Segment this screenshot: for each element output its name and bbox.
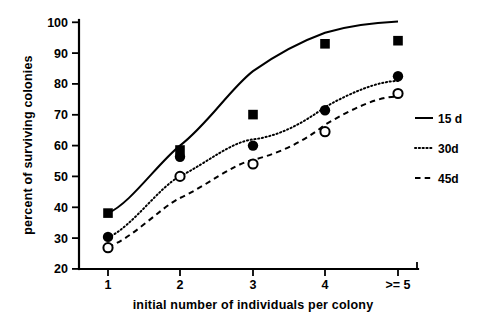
point-45d-x5 xyxy=(393,89,402,98)
x-tick-labels: 1 2 3 4 >= 5 xyxy=(105,278,411,292)
y-tick-label-20: 20 xyxy=(54,262,68,276)
series-30d-markers xyxy=(103,71,403,242)
x-axis-title: initial number of individuals per colony xyxy=(133,298,374,312)
y-tick-label-70: 70 xyxy=(54,108,68,122)
point-30d-x1 xyxy=(103,232,113,242)
point-15d-x5 xyxy=(393,36,403,46)
chart-legend: 15 d 30d 45d xyxy=(415,112,462,186)
x-tick-label-3: 3 xyxy=(250,278,257,292)
y-axis-title: percent of surviving colonies xyxy=(21,55,35,234)
point-45d-x3 xyxy=(248,159,257,168)
point-30d-x3 xyxy=(248,140,258,150)
legend-label-15d: 15 d xyxy=(438,112,462,126)
x-tick-label-2: 2 xyxy=(177,278,184,292)
survival-line-chart: 20 30 40 50 60 70 80 90 100 1 2 3 4 >= 5 xyxy=(0,0,479,322)
y-tick-label-80: 80 xyxy=(54,77,68,91)
y-tick-labels: 20 30 40 50 60 70 80 90 100 xyxy=(47,16,68,277)
y-tick-label-90: 90 xyxy=(54,47,68,61)
y-tick-label-30: 30 xyxy=(54,232,68,246)
point-15d-x4 xyxy=(320,39,330,49)
point-45d-x2 xyxy=(175,172,184,181)
legend-entry-45d: 45d xyxy=(415,172,459,186)
point-15d-x1 xyxy=(103,208,113,218)
point-45d-x1 xyxy=(103,243,112,252)
legend-entry-15d: 15 d xyxy=(415,112,462,126)
y-tick-label-60: 60 xyxy=(54,139,68,153)
series-15d-markers xyxy=(103,36,403,218)
legend-label-30d: 30d xyxy=(438,142,459,156)
chart-figure: 20 30 40 50 60 70 80 90 100 1 2 3 4 >= 5 xyxy=(0,0,479,322)
legend-label-45d: 45d xyxy=(438,172,459,186)
y-tick-label-50: 50 xyxy=(54,170,68,184)
point-30d-x4 xyxy=(320,105,330,115)
x-tick-label-5: >= 5 xyxy=(385,278,410,292)
point-45d-x4 xyxy=(320,127,329,136)
y-tick-label-100: 100 xyxy=(47,16,68,30)
legend-entry-30d: 30d xyxy=(415,142,459,156)
point-15d-x3 xyxy=(248,110,258,120)
x-tick-label-1: 1 xyxy=(105,278,112,292)
point-30d-x2 xyxy=(175,152,185,162)
x-tick-label-4: 4 xyxy=(322,278,329,292)
y-tick-label-40: 40 xyxy=(54,201,68,215)
point-30d-x5 xyxy=(393,71,403,81)
